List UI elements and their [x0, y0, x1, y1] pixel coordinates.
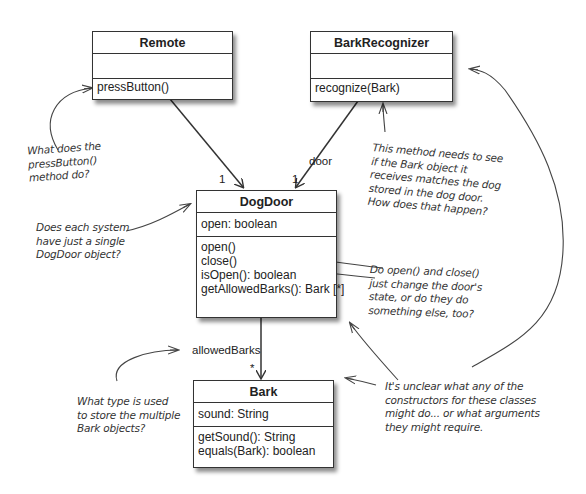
door-role-label: door: [309, 155, 332, 167]
note-single-dogdoor: Does each system have just a single DogD…: [36, 221, 129, 262]
constructors-note-pointer-bark: [346, 378, 376, 385]
method: close(): [201, 254, 332, 268]
class-bark-methods: getSound(): String equals(Bark): boolean: [194, 427, 333, 466]
note-constructors: It's unclear what any of the constructor…: [385, 380, 540, 434]
method: isOpen(): boolean: [201, 268, 332, 282]
class-bark-recognizer-attributes: [311, 54, 452, 79]
method: pressButton(): [97, 80, 228, 94]
class-bark-recognizer-methods: recognize(Bark): [311, 79, 452, 100]
constructors-note-pointer-dogdoor: [350, 323, 398, 380]
allowedbarks-role-label: allowedBarks: [192, 344, 260, 356]
note-recognize: This method needs to see if the Bark obj…: [367, 141, 504, 220]
method: equals(Bark): boolean: [198, 444, 329, 458]
class-remote-methods: pressButton(): [93, 79, 232, 98]
class-dogdoor: DogDoor open: boolean open() close() isO…: [196, 190, 337, 318]
remote-dogdoor-association: [170, 99, 243, 187]
bark-multiplicity: *: [250, 362, 254, 374]
single-dogdoor-note-pointer: [126, 204, 190, 231]
note-bark-type: What type is used to store the multiple …: [77, 395, 180, 436]
bark-type-note-pointer: [116, 350, 178, 381]
class-bark-recognizer-name: BarkRecognizer: [311, 32, 452, 54]
class-bark-name: Bark: [194, 381, 333, 403]
recognizer-dogdoor-association: [296, 101, 358, 187]
recognizer-multiplicity: 1: [292, 173, 298, 185]
class-bark-recognizer: BarkRecognizer recognize(Bark): [310, 31, 453, 102]
class-dogdoor-methods: open() close() isOpen(): boolean getAllo…: [197, 237, 336, 316]
class-bark-attributes: sound: String: [194, 403, 333, 427]
class-remote-name: Remote: [93, 32, 232, 54]
class-dogdoor-name: DogDoor: [197, 191, 336, 213]
note-press-button: What does the pressButton() method do?: [27, 139, 104, 185]
note-open-close: Do open() and close() just change the do…: [368, 263, 483, 321]
remote-multiplicity: 1: [219, 173, 225, 185]
class-dogdoor-attributes: open: boolean: [197, 213, 336, 237]
method: getSound(): String: [198, 430, 329, 444]
class-remote-attributes: [93, 54, 232, 79]
method: getAllowedBarks(): Bark [*]: [201, 282, 332, 296]
attribute: sound: String: [198, 407, 329, 421]
method: open(): [201, 240, 332, 254]
attribute: open: boolean: [201, 217, 332, 231]
method: recognize(Bark): [315, 81, 448, 95]
class-remote: Remote pressButton(): [92, 31, 233, 100]
recognize-note-pointer: [383, 104, 385, 132]
class-bark: Bark sound: String getSound(): String eq…: [193, 380, 334, 468]
